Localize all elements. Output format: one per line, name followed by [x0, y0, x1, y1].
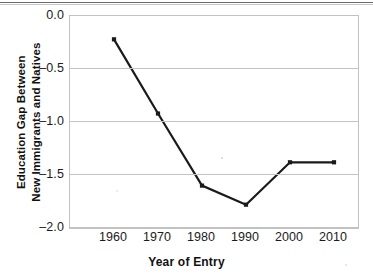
- x-axis-title: Year of Entry: [0, 255, 373, 269]
- data-series-line: [70, 16, 358, 228]
- scan-speckle: [221, 157, 223, 159]
- x-axis-tick-label: 1980: [187, 231, 215, 244]
- y-axis-tick-label: –1.0: [2, 115, 64, 128]
- plot-area: [69, 15, 359, 229]
- data-point-marker: [200, 184, 204, 188]
- gridline: [70, 227, 358, 228]
- chart-figure: Education Gap Between New Immigrants and…: [0, 0, 373, 278]
- x-axis-tick-label: 1960: [99, 231, 127, 244]
- scan-speckle: [345, 264, 347, 266]
- x-axis-tick-label: 2010: [319, 231, 347, 244]
- gridline: [70, 121, 358, 122]
- x-axis-tick-labels: 196019701980199020002010: [0, 231, 373, 249]
- x-axis-tick-label: 1990: [231, 231, 259, 244]
- gridline: [70, 174, 358, 175]
- gridline: [70, 68, 358, 69]
- data-point-marker: [156, 111, 160, 115]
- data-point-marker: [288, 160, 292, 164]
- data-point-marker: [244, 203, 248, 207]
- data-point-marker: [112, 37, 116, 41]
- x-axis-tick-label: 2000: [275, 231, 303, 244]
- data-point-marker: [332, 160, 336, 164]
- x-axis-tick-label: 1970: [143, 231, 171, 244]
- scan-speckle: [116, 190, 118, 192]
- y-axis-tick-label: –0.5: [2, 62, 64, 75]
- y-axis-tick-label: –1.5: [2, 168, 64, 181]
- y-axis-tick-label: 0.0: [2, 9, 64, 22]
